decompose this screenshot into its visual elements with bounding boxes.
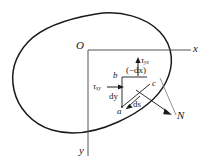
origin-label: O bbox=[76, 40, 84, 51]
x-axis-label: x bbox=[193, 43, 198, 54]
tau-xy-subscript: xy bbox=[96, 85, 101, 91]
dy-text: dy bbox=[109, 91, 118, 101]
y-axis-label: y bbox=[79, 145, 84, 156]
vertex-b-label: b bbox=[113, 71, 118, 80]
tau-yx-arrow-head bbox=[135, 57, 140, 63]
body-outline bbox=[13, 13, 172, 133]
tau-xy-label: τxy bbox=[93, 82, 101, 91]
vertex-a-label: a bbox=[117, 107, 122, 116]
tau-yx-subscript: yx bbox=[144, 59, 149, 65]
ds-text: ds bbox=[133, 99, 141, 109]
dx-text: (−dx) bbox=[126, 65, 146, 75]
normal-label: N bbox=[177, 110, 184, 121]
ds-shear-arrow-head bbox=[126, 104, 133, 109]
side-ds-label: ds bbox=[133, 100, 141, 109]
tau-xy-arrow-head bbox=[118, 84, 124, 89]
normal-arrow-head bbox=[163, 109, 172, 115]
vertex-c-label: c bbox=[152, 79, 156, 88]
side-dy-label: dy bbox=[109, 92, 118, 101]
normal-line bbox=[160, 78, 176, 115]
tau-yx-label: τyx bbox=[141, 56, 149, 65]
figure-canvas bbox=[0, 0, 210, 168]
side-dx-label: (−dx) bbox=[126, 66, 146, 75]
stress-element-figure: O x y b c a dy (−dx) ds τyx τxy N bbox=[0, 0, 210, 168]
